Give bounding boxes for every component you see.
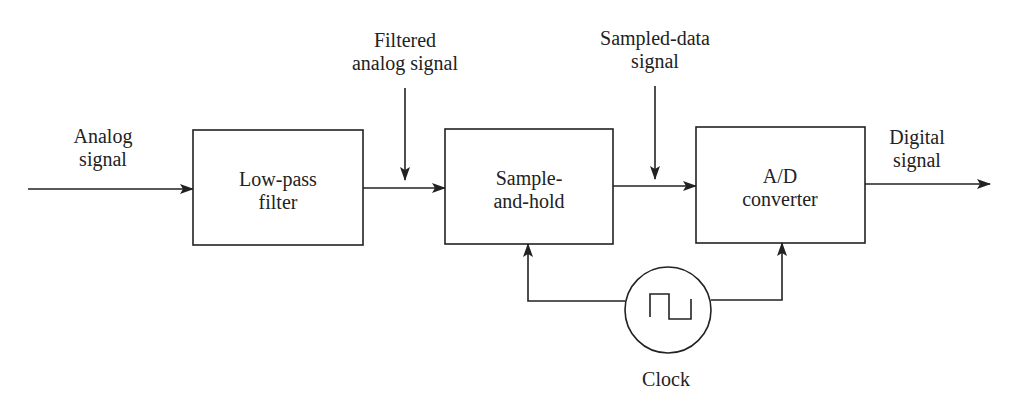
input-label-line2: signal [79, 148, 127, 171]
clock-circle [625, 267, 711, 353]
filtered-label-line1: Filtered [374, 29, 436, 51]
clock: Clock [528, 243, 782, 390]
lowpass-label-line2: filter [259, 191, 298, 213]
samplehold-label-line2: and-hold [493, 190, 564, 212]
sampled-label-line2: signal [631, 50, 679, 73]
filtered-signal: Filtered analog signal [352, 29, 459, 188]
clock-to-samplehold-arrow [528, 244, 625, 301]
sampled-label-line1: Sampled-data [600, 27, 710, 50]
output-label-line1: Digital [889, 126, 945, 149]
output-label-line2: signal [893, 149, 941, 172]
samplehold-label-line1: Sample- [496, 167, 563, 190]
lowpass-filter-block: Low-pass filter [193, 130, 363, 245]
clock-to-adc-arrow [711, 243, 782, 300]
sample-and-hold-block: Sample- and-hold [445, 129, 613, 244]
clock-label: Clock [642, 368, 690, 390]
adc-label-line2: converter [742, 188, 818, 210]
input-signal: Analog signal [28, 125, 193, 189]
output-signal: Digital signal [865, 126, 990, 184]
block-diagram: Analog signal Low-pass filter Filtered a… [0, 0, 1015, 409]
sampled-signal: Sampled-data signal [600, 27, 710, 186]
input-label-line1: Analog [74, 125, 133, 148]
adc-block: A/D converter [696, 127, 865, 243]
filtered-label-line2: analog signal [352, 52, 459, 75]
lowpass-label-line1: Low-pass [239, 168, 317, 191]
adc-label-line1: A/D [763, 165, 797, 187]
